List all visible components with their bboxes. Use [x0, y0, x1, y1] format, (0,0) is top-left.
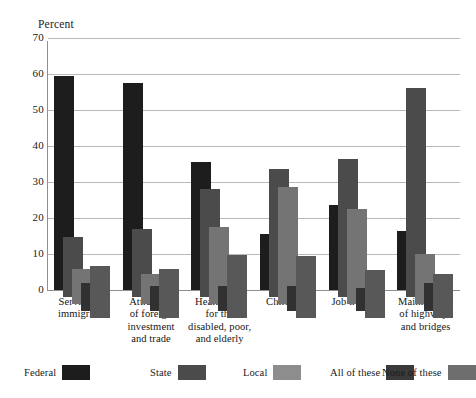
y-axis-tick-label: 60 [10, 68, 44, 79]
bar-none-of-these [365, 270, 385, 318]
bar-group [397, 38, 466, 290]
x-axis-label-line: and bridges [385, 321, 466, 333]
bar-group [260, 38, 329, 290]
bar-group [329, 38, 398, 290]
bar-none-of-these [433, 274, 453, 318]
y-axis-tick-label: 70 [10, 32, 44, 43]
y-axis-tick-label: 40 [10, 140, 44, 151]
bar-group [123, 38, 192, 290]
bar-none-of-these [296, 256, 316, 318]
legend-label: All of these [330, 367, 380, 379]
legend-swatch [178, 365, 206, 380]
x-axis-label-line: and elderly [179, 333, 260, 345]
legend-swatch [448, 365, 476, 380]
bar-none-of-these [227, 255, 247, 318]
bar-none-of-these [159, 269, 179, 318]
chart-legend: FederalStateLocalAll of theseNone of the… [0, 365, 476, 393]
y-axis-tick-label: 20 [10, 212, 44, 223]
bar-group [54, 38, 123, 290]
y-axis-tick-label: 0 [10, 284, 44, 295]
legend-entry[interactable]: Local [243, 365, 301, 380]
y-axis-title: Percent [38, 18, 74, 30]
y-axis-tick-label: 10 [10, 248, 44, 259]
x-axis-label-line: disabled, poor, [179, 321, 260, 333]
legend-entry[interactable]: None of these [382, 365, 476, 380]
legend-swatch [62, 365, 90, 380]
bar-group [191, 38, 260, 290]
bar-none-of-these [90, 266, 110, 318]
legend-label: Federal [24, 367, 56, 379]
y-axis-tick-label: 50 [10, 104, 44, 115]
legend-label: Local [243, 367, 267, 379]
chart-page: Percent 706050403020100 Services toimmig… [0, 0, 476, 398]
legend-entry[interactable]: Federal [24, 365, 90, 380]
y-axis-tick-label: 30 [10, 176, 44, 187]
plot-area [48, 38, 460, 290]
y-axis-tick-labels: 706050403020100 [6, 38, 44, 290]
legend-entry[interactable]: State [150, 365, 206, 380]
legend-swatch [273, 365, 301, 380]
legend-label: State [150, 367, 172, 379]
legend-label: None of these [382, 367, 442, 379]
